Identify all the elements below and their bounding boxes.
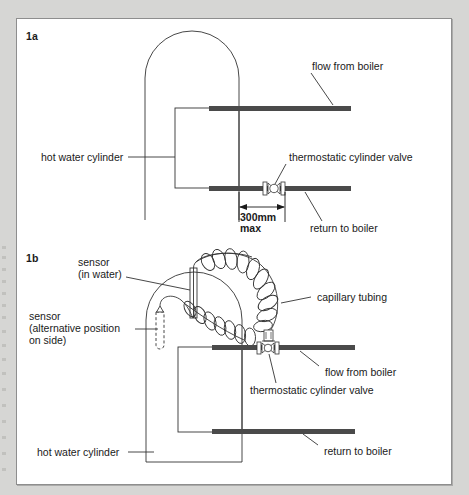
label-flow-from-boiler-1b: flow from boiler bbox=[325, 366, 396, 379]
label-sensor-in-water-line2: (in water) bbox=[78, 268, 122, 281]
label-thermostatic-cylinder-valve-1b: thermostatic cylinder valve bbox=[250, 384, 374, 397]
label-capillary-tubing: capillary tubing bbox=[317, 291, 387, 304]
label-hot-water-cylinder-1b: hot water cylinder bbox=[37, 446, 119, 459]
valve-symbol-1b bbox=[257, 330, 279, 354]
flow-pipe-1b bbox=[212, 345, 355, 350]
capillary-coil-lower bbox=[181, 299, 256, 346]
diagram-page: 1a bbox=[0, 0, 469, 495]
sensor-alt-tip bbox=[157, 306, 164, 312]
label-sensor-alt-line1: sensor bbox=[29, 310, 61, 323]
leader-valve-1b bbox=[269, 354, 276, 383]
figure-1b-drawing bbox=[0, 0, 469, 495]
capillary-coil-upper bbox=[198, 248, 280, 334]
valve-actuator-head bbox=[264, 330, 273, 341]
label-sensor-alt-line3: on side) bbox=[29, 334, 66, 347]
cylinder-coil-1b bbox=[178, 347, 242, 432]
return-pipe-1b bbox=[212, 429, 355, 434]
label-return-to-boiler-1b: return to boiler bbox=[324, 445, 392, 458]
label-sensor-alt-line2: (alternative position bbox=[29, 322, 120, 335]
sensor-alt-dashed bbox=[156, 312, 164, 349]
label-sensor-in-water-line1: sensor bbox=[78, 256, 110, 269]
leader-capillary bbox=[281, 297, 311, 303]
leader-flow-1b bbox=[300, 351, 319, 366]
leader-return-1b bbox=[303, 434, 318, 445]
